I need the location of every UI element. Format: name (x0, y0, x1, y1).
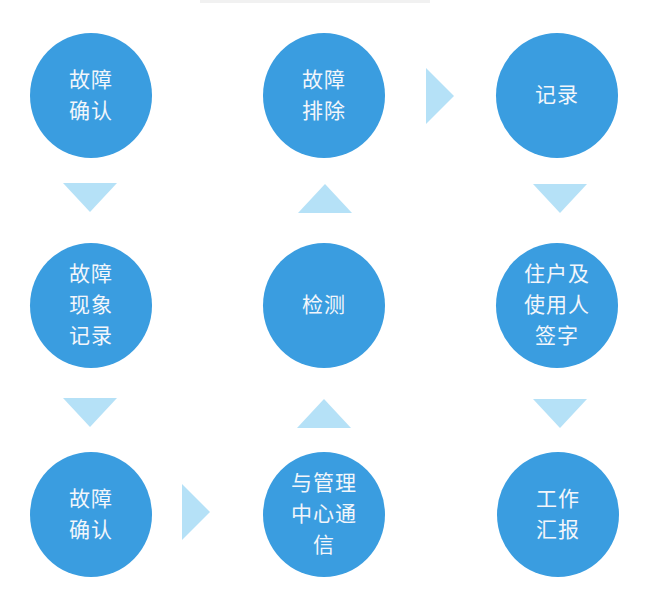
node-label-line: 现象 (69, 290, 113, 321)
node-label-line: 故障 (69, 484, 113, 515)
node-resident-sign: 住户及 使用人 签字 (496, 243, 618, 368)
node-label-line: 故障 (69, 259, 113, 290)
node-fault-confirm-1: 故障 确认 (30, 33, 152, 158)
node-label-line: 签字 (535, 321, 579, 352)
node-label-line: 故障 (69, 65, 113, 96)
node-fault-clear: 故障 排除 (263, 33, 385, 158)
node-work-report: 工作 汇报 (497, 452, 619, 577)
top-divider (200, 0, 430, 3)
arrow-right-icon (182, 484, 210, 540)
node-label-line: 与管理 (291, 468, 357, 499)
arrow-down-icon (533, 184, 587, 213)
node-label-line: 记录 (535, 80, 579, 111)
node-label-line: 工作 (536, 484, 580, 515)
node-fault-phenomenon-record: 故障 现象 记录 (30, 243, 152, 368)
node-record: 记录 (496, 33, 618, 158)
node-label-line: 住户及 (524, 259, 590, 290)
node-label-line: 信 (313, 530, 335, 561)
arrow-down-icon (63, 398, 117, 427)
node-contact-management: 与管理 中心通 信 (263, 452, 385, 577)
node-label-line: 故障 (302, 65, 346, 96)
node-label-line: 中心通 (291, 499, 357, 530)
arrow-down-icon (63, 183, 117, 212)
node-label-line: 确认 (69, 515, 113, 546)
arrow-up-icon (298, 184, 352, 213)
node-label-line: 使用人 (524, 290, 590, 321)
arrow-up-icon (297, 399, 351, 428)
arrow-right-icon (426, 68, 454, 124)
node-label-line: 确认 (69, 96, 113, 127)
node-inspect: 检测 (263, 243, 385, 368)
node-label-line: 排除 (302, 96, 346, 127)
node-label-line: 检测 (302, 290, 346, 321)
node-fault-confirm-2: 故障 确认 (30, 452, 152, 577)
arrow-down-icon (533, 399, 587, 428)
node-label-line: 记录 (69, 321, 113, 352)
node-label-line: 汇报 (536, 515, 580, 546)
